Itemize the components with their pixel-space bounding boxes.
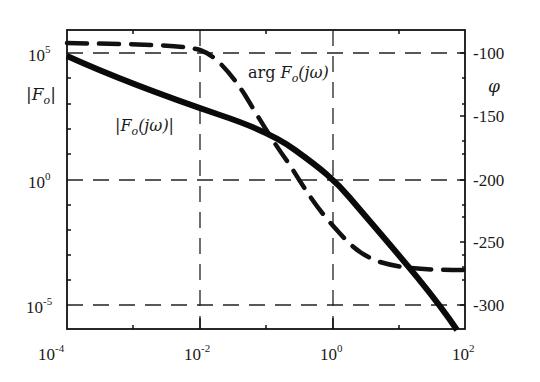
- left-axis-label: |Fo|: [26, 84, 56, 107]
- svg-text:-100: -100: [473, 44, 504, 63]
- phase-annotation: arg Fo(jω): [248, 63, 329, 85]
- svg-text:-200: -200: [473, 171, 504, 190]
- svg-text:100: 100: [320, 342, 343, 364]
- x-tick-labels: 10-4 10-2 100 102: [38, 342, 475, 364]
- svg-text:-150: -150: [473, 107, 504, 126]
- svg-text:10-2: 10-2: [184, 342, 210, 364]
- magnitude-annotation: |Fo(jω)|: [115, 116, 174, 138]
- svg-text:10-5: 10-5: [26, 295, 53, 317]
- bode-chart: 10-4 10-2 100 102 105 100 10-5 |Fo| -100…: [0, 0, 540, 382]
- svg-text:105: 105: [28, 43, 51, 65]
- svg-text:102: 102: [452, 342, 475, 364]
- svg-text:100: 100: [28, 170, 51, 192]
- svg-text:-250: -250: [473, 233, 504, 252]
- magnitude-curve: [67, 56, 457, 330]
- svg-text:-300: -300: [473, 296, 504, 315]
- right-axis-label: φ: [488, 76, 500, 96]
- svg-text:10-4: 10-4: [38, 342, 65, 364]
